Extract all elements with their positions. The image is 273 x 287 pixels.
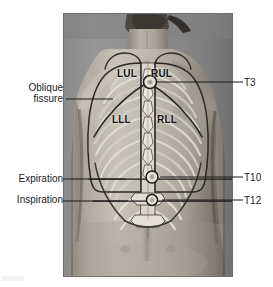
annotation-t10: T10 (244, 172, 261, 183)
annotation-t3: T3 (244, 77, 256, 88)
annotation-oblique-fissure: Oblique fissure (0, 82, 65, 104)
annotation-expiration: Expiration (0, 173, 65, 184)
leader-lines (0, 0, 273, 287)
annotation-t12: T12 (244, 195, 261, 206)
annotation-oblique-fissure-line2: fissure (0, 93, 63, 104)
figure-root: LUL RUL LLL RLL Oblique fissure Expirati… (0, 0, 273, 287)
annotation-inspiration: Inspiration (0, 194, 65, 205)
scan-artifact (2, 276, 24, 281)
annotation-oblique-fissure-line1: Oblique (0, 82, 63, 93)
